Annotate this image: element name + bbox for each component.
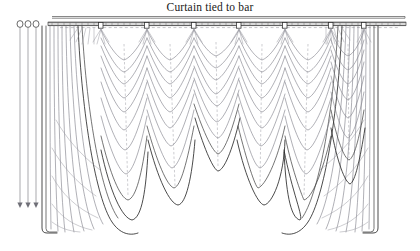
curtain-illustration: .ink { fill:none; stroke:#2b2b2b; stroke… xyxy=(0,0,420,251)
curtain-figure: Curtain tied to bar .ink { fill:none; st… xyxy=(0,0,420,251)
cord-arrow-icon xyxy=(25,203,30,208)
right-side-panel xyxy=(282,26,378,234)
pull-cords xyxy=(17,27,38,208)
cord-arrow-icon xyxy=(17,203,22,208)
curtain-rings[interactable] xyxy=(17,21,39,28)
cord-arrow-icon xyxy=(33,203,38,208)
panel-top-gathers xyxy=(70,28,350,44)
swag-festoon xyxy=(147,30,195,205)
